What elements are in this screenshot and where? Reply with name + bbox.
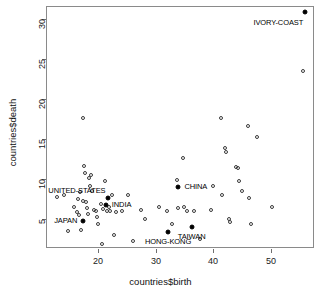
data-point: [100, 242, 104, 246]
data-point: [55, 195, 59, 199]
data-point: [95, 215, 99, 219]
point-label-taiwan: TAIWAN: [178, 233, 206, 241]
data-point: [94, 209, 98, 213]
x-tick-label-40: 40: [208, 256, 218, 266]
data-point: [209, 208, 213, 212]
data-point: [99, 202, 103, 206]
plot-area: JAPANUNITED-STATESINDIACHINAHONG-KONGTAI…: [46, 6, 314, 248]
data-point: [84, 200, 88, 204]
data-point-highlighted: [105, 195, 110, 200]
data-point: [157, 205, 161, 209]
data-point-highlighted: [81, 218, 86, 223]
data-point: [185, 209, 189, 213]
data-point: [76, 197, 80, 201]
data-point: [85, 206, 89, 210]
data-point: [181, 156, 185, 160]
data-point-highlighted: [303, 9, 308, 14]
data-point-highlighted: [176, 185, 181, 190]
data-point: [126, 193, 130, 197]
data-point: [139, 208, 143, 212]
data-point: [86, 212, 90, 216]
point-label-india: INDIA: [112, 201, 132, 209]
data-point: [249, 222, 253, 226]
data-point: [72, 205, 76, 209]
data-point-highlighted: [166, 230, 171, 235]
data-point: [79, 228, 83, 232]
data-point: [170, 222, 174, 226]
data-point: [270, 205, 274, 209]
data-point: [77, 213, 81, 217]
data-point: [83, 171, 87, 175]
data-point: [240, 189, 244, 193]
point-label-united-states: UNITED-STATES: [47, 187, 106, 195]
point-label-japan: JAPAN: [47, 217, 77, 225]
data-point: [301, 69, 305, 73]
data-point: [255, 135, 259, 139]
data-point: [192, 209, 196, 213]
data-point: [89, 173, 93, 177]
data-point: [110, 193, 114, 197]
data-point: [236, 166, 240, 170]
data-point: [96, 222, 100, 226]
x-tick-label-50: 50: [266, 256, 276, 266]
data-point: [211, 184, 215, 188]
data-point-layer: JAPANUNITED-STATESINDIACHINAHONG-KONGTAI…: [47, 7, 313, 247]
point-label-ivory-coast: IVORY-COAST: [47, 19, 303, 27]
point-label-china: CHINA: [184, 183, 207, 191]
data-point: [175, 178, 179, 182]
data-point: [108, 209, 112, 213]
x-tick-label-20: 20: [93, 256, 103, 266]
scatter-plot-figure: 5 10 15 20 25 30 20 30 40 50 countries$b…: [0, 0, 321, 302]
x-tick-mark: [271, 249, 272, 253]
data-point: [220, 193, 224, 197]
data-point: [82, 164, 86, 168]
x-tick-mark: [156, 249, 157, 253]
data-point-highlighted: [103, 202, 108, 207]
x-tick-mark: [213, 249, 214, 253]
data-point: [246, 124, 250, 128]
data-point: [237, 179, 241, 183]
data-point: [247, 196, 251, 200]
data-point: [143, 217, 147, 221]
data-point: [120, 209, 124, 213]
data-point: [219, 116, 223, 120]
data-point: [228, 220, 232, 224]
data-point-highlighted: [189, 225, 194, 230]
y-axis-title: countries$death: [7, 73, 18, 193]
x-axis-title: countries$birth: [0, 276, 321, 287]
data-point: [131, 239, 135, 243]
x-tick-label-30: 30: [151, 256, 161, 266]
data-point: [165, 209, 169, 213]
data-point: [112, 233, 116, 237]
x-tick-mark: [98, 249, 99, 253]
data-point: [66, 229, 70, 233]
data-point: [224, 150, 228, 154]
data-point: [176, 206, 180, 210]
data-point: [114, 210, 118, 214]
data-point: [103, 179, 107, 183]
data-point: [81, 116, 85, 120]
